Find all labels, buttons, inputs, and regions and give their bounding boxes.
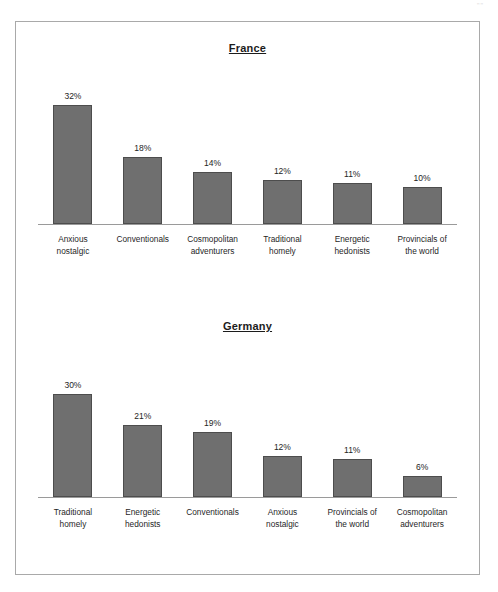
- chart-france-plot: 32%18%14%12%11%10%: [38, 72, 457, 225]
- category-label: Cosmopolitanadventurers: [387, 507, 457, 530]
- category-label: Energetichedonists: [108, 507, 178, 530]
- bar-slot: 14%: [178, 72, 248, 224]
- chart-germany: Germany 30%21%19%12%11%6% Traditionalhom…: [16, 304, 479, 576]
- bar-value-label: 12%: [274, 442, 291, 452]
- chart-germany-plot: 30%21%19%12%11%6%: [38, 354, 457, 498]
- bar-value-label: 30%: [64, 380, 81, 390]
- category-label-line: homely: [39, 519, 107, 531]
- bar: [263, 180, 302, 224]
- category-label-line: Cosmopolitan: [388, 507, 456, 519]
- bar-value-label: 12%: [274, 166, 291, 176]
- category-label-line: Provincials of: [318, 507, 386, 519]
- category-label: Cosmopolitanadventurers: [178, 234, 248, 257]
- chart-germany-title: Germany: [16, 320, 479, 332]
- bar: [193, 172, 232, 224]
- bar-slot: 30%: [38, 354, 108, 497]
- category-label: Provincials ofthe world: [387, 234, 457, 257]
- category-label-line: hedonists: [109, 519, 177, 531]
- category-label-line: the world: [318, 519, 386, 531]
- category-label-line: Anxious: [248, 507, 316, 519]
- category-label-line: hedonists: [318, 246, 386, 258]
- bar-value-label: 11%: [344, 169, 360, 179]
- category-label-line: adventurers: [388, 519, 456, 531]
- category-label-line: adventurers: [179, 246, 247, 258]
- category-label-line: Conventionals: [109, 234, 177, 246]
- bar-slot: 11%: [317, 72, 387, 224]
- category-label-line: nostalgic: [39, 246, 107, 258]
- bar: [263, 456, 302, 497]
- bar-slot: 18%: [108, 72, 178, 224]
- category-label: Conventionals: [108, 234, 178, 257]
- category-label-line: Traditional: [248, 234, 316, 246]
- bar-value-label: 21%: [134, 411, 151, 421]
- bar-slot: 12%: [247, 72, 317, 224]
- category-label-line: the world: [388, 246, 456, 258]
- category-label-line: Provincials of: [388, 234, 456, 246]
- category-label: Conventionals: [178, 507, 248, 530]
- category-label-line: Cosmopolitan: [179, 234, 247, 246]
- page-frame: France 32%18%14%12%11%10% Anxiousnostalg…: [15, 21, 480, 575]
- bar-slot: 6%: [387, 354, 457, 497]
- scan-artifact-mark: "": [477, 2, 484, 9]
- bar-slot: 19%: [178, 354, 248, 497]
- bar-value-label: 14%: [204, 158, 221, 168]
- chart-france: France 32%18%14%12%11%10% Anxiousnostalg…: [16, 22, 479, 302]
- category-label-line: Energetic: [109, 507, 177, 519]
- bar-slot: 21%: [108, 354, 178, 497]
- bar-value-label: 32%: [64, 91, 81, 101]
- category-label-line: Conventionals: [179, 507, 247, 519]
- bar: [123, 425, 162, 497]
- bar-value-label: 11%: [344, 445, 360, 455]
- category-label: Anxiousnostalgic: [38, 234, 108, 257]
- category-label: Traditionalhomely: [38, 507, 108, 530]
- bar: [403, 476, 442, 497]
- category-label: Traditionalhomely: [247, 234, 317, 257]
- category-label-line: nostalgic: [248, 519, 316, 531]
- bar: [333, 459, 372, 497]
- category-label-line: Traditional: [39, 507, 107, 519]
- bar-slot: 10%: [387, 72, 457, 224]
- category-label-line: Energetic: [318, 234, 386, 246]
- bar-slot: 32%: [38, 72, 108, 224]
- chart-germany-category-labels: TraditionalhomelyEnergetichedonistsConve…: [38, 498, 457, 530]
- bar: [333, 183, 372, 224]
- category-label-line: Anxious: [39, 234, 107, 246]
- bar: [53, 394, 92, 497]
- bar: [123, 157, 162, 224]
- bar-value-label: 10%: [414, 173, 431, 183]
- bar-value-label: 19%: [204, 418, 221, 428]
- chart-france-category-labels: AnxiousnostalgicConventionalsCosmopolita…: [38, 225, 457, 257]
- bar-value-label: 18%: [134, 143, 151, 153]
- bar: [403, 187, 442, 224]
- chart-france-title: France: [16, 42, 479, 54]
- category-label: Anxiousnostalgic: [247, 507, 317, 530]
- category-label: Energetichedonists: [317, 234, 387, 257]
- bar-slot: 12%: [247, 354, 317, 497]
- bar-value-label: 6%: [416, 462, 428, 472]
- bar: [193, 432, 232, 497]
- bar-slot: 11%: [317, 354, 387, 497]
- category-label: Provincials ofthe world: [317, 507, 387, 530]
- category-label-line: homely: [248, 246, 316, 258]
- bar: [53, 105, 92, 224]
